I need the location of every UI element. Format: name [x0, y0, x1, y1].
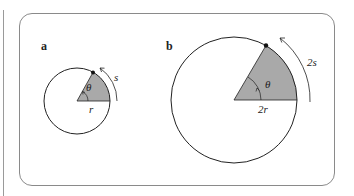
panel-a: a θ r s	[41, 39, 118, 134]
sector-b	[234, 46, 297, 101]
theta-label-a: θ	[86, 81, 92, 93]
arc-label-a: s	[114, 71, 118, 83]
radius-label-a: r	[89, 103, 94, 115]
panel-a-label: a	[41, 39, 47, 53]
panel-b-label: b	[166, 39, 173, 53]
theta-label-b: θ	[265, 78, 271, 90]
arc-label-b: 2s	[307, 56, 317, 68]
sector-a	[77, 72, 110, 101]
point-a	[91, 70, 95, 74]
point-b	[264, 43, 268, 47]
radius-label-b: 2r	[258, 103, 269, 115]
panel-b: b θ 2r 2s	[166, 37, 317, 163]
circular-motion-diagram: a θ r s b θ 2r 2s	[0, 0, 354, 196]
